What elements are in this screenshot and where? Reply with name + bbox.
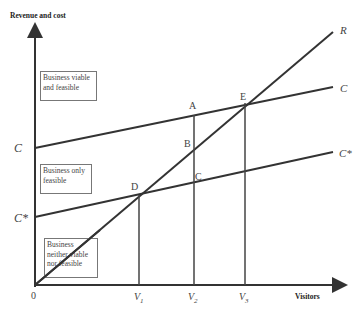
x-tick-v1: V1	[134, 292, 144, 305]
revenue-line-label: R	[340, 25, 347, 36]
point-b-label: B	[184, 139, 191, 149]
origin-label: 0	[31, 291, 36, 301]
region-neither-line3: nor feasible	[47, 259, 95, 269]
point-c-label: C	[195, 172, 202, 182]
region-feasible-box: Business only feasible	[40, 164, 92, 194]
cost-star-line-label: C*	[339, 148, 352, 159]
region-viable-line2: and feasible	[43, 83, 94, 93]
y-axis-label: Revenue and cost	[10, 12, 66, 20]
point-e-label: E	[240, 92, 246, 102]
x-tick-v2: V2	[188, 292, 198, 305]
region-neither-line2: neither viable	[47, 250, 95, 260]
y-tick-c: C	[14, 142, 22, 154]
region-feasible-line1: Business only	[43, 166, 89, 176]
point-a-label: A	[189, 101, 196, 111]
region-feasible-line2: feasible	[43, 176, 89, 186]
region-viable-box: Business viable and feasible	[40, 71, 97, 101]
cost-line-label: C	[340, 83, 347, 94]
point-d-label: D	[131, 182, 138, 192]
region-viable-line1: Business viable	[43, 73, 94, 83]
x-tick-v3: V3	[239, 292, 249, 305]
x-axis-label: Visitors	[295, 293, 320, 301]
region-neither-line1: Business	[47, 240, 95, 250]
region-neither-box: Business neither viable nor feasible	[44, 238, 98, 278]
y-tick-c-star: C*	[14, 212, 28, 224]
